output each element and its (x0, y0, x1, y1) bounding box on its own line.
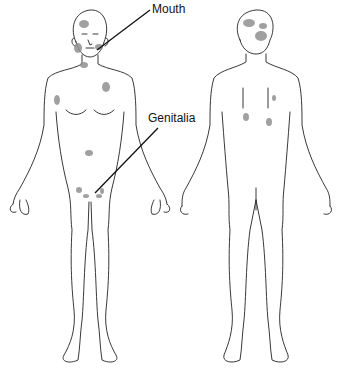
lesion-abdomen (85, 150, 93, 156)
lesion-upper-back (272, 95, 276, 101)
lesion-mid-back-left (243, 113, 249, 121)
lesion-occiput-3 (255, 31, 267, 41)
lesion-mid-back-right (266, 118, 272, 126)
lesion-axilla (54, 95, 60, 105)
lesion-groin-right (100, 188, 104, 194)
lesion-genital-1 (83, 194, 89, 198)
lesion-groin-left (76, 187, 82, 193)
lesion-chest (102, 82, 110, 92)
lesion-neck (80, 62, 88, 68)
mouth-pointer-line (97, 10, 150, 50)
genitalia-pointer-line (95, 128, 158, 193)
lesion-occiput-1 (243, 19, 255, 27)
genitalia-label: Genitalia (148, 111, 195, 125)
lesion-occiput-2 (259, 23, 267, 29)
lesion-cheek (74, 43, 82, 53)
mouth-label: Mouth (152, 2, 185, 16)
lesion-genital-2 (96, 194, 102, 198)
front-lesions (0, 0, 343, 368)
lesion-scalp (79, 20, 89, 28)
